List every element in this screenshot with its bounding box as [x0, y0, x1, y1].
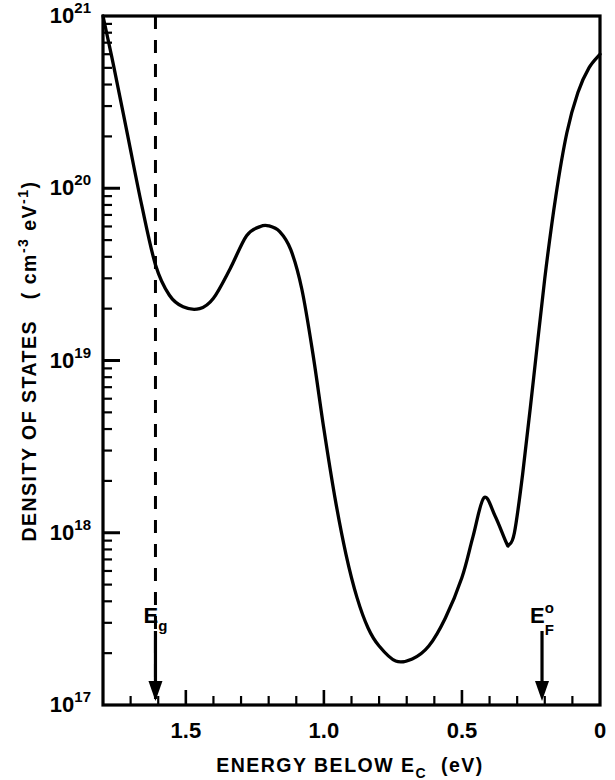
annotation-eg: Eg — [144, 603, 168, 701]
y-axis-title-unit-close: ) — [18, 180, 40, 188]
y-axis-tick-label: 1021 — [50, 0, 91, 28]
axes-rectangle — [103, 16, 600, 705]
annotation-arrow-head-ef0 — [535, 681, 549, 701]
x-axis-tick-label: 1.5 — [171, 718, 202, 743]
axis-annotations: EgEoF — [144, 599, 555, 701]
x-axis-tick-label: 0 — [594, 718, 606, 743]
y-axis-title-main: DENSITY OF STATES — [18, 320, 40, 542]
x-axis-title-subscript: C — [416, 765, 428, 780]
svg-text:1017: 1017 — [50, 688, 91, 717]
y-axis-title-unit-open: ( cm — [18, 253, 40, 299]
svg-text:1021: 1021 — [50, 0, 91, 28]
figure-container: 10211020101910181017 1.51.00.50 EgEoF EN… — [0, 0, 615, 780]
annotation-label-eg: Eg — [144, 603, 168, 634]
y-axis-title-unit-exponent-1: -3 — [15, 238, 31, 253]
density-of-states-chart: 10211020101910181017 1.51.00.50 EgEoF EN… — [0, 0, 615, 780]
plot-frame — [103, 16, 600, 705]
annotation-ef0: EoF — [530, 599, 554, 701]
y-axis-tick-labels: 10211020101910181017 — [50, 0, 91, 717]
x-axis-tick-label: 0.5 — [447, 718, 478, 743]
y-axis-tick-label: 1017 — [50, 688, 91, 717]
x-axis-title-unit: (eV) — [441, 754, 484, 776]
x-axis-title: ENERGY BELOW EC (eV) — [216, 754, 484, 780]
svg-text:1019: 1019 — [50, 344, 91, 373]
y-axis-tick-label: 1019 — [50, 344, 91, 373]
x-axis-major-ticks — [186, 690, 462, 705]
annotation-arrow-head-eg — [148, 681, 162, 701]
y-axis-tick-label: 1020 — [50, 171, 91, 200]
svg-text:1020: 1020 — [50, 171, 91, 200]
y-axis-tick-label: 1018 — [50, 516, 91, 545]
data-curve-density-of-states — [103, 16, 600, 662]
svg-text:1018: 1018 — [50, 516, 91, 545]
y-axis-title-unit-exponent-2: -1 — [15, 188, 31, 203]
x-axis-tick-label: 1.0 — [309, 718, 340, 743]
svg-text:ENERGY BELOW EC (eV): ENERGY BELOW EC (eV) — [216, 754, 484, 780]
y-axis-title-unit-mid: eV — [18, 204, 40, 238]
x-axis-title-main: ENERGY BELOW E — [216, 754, 415, 776]
x-axis-tick-labels: 1.51.00.50 — [171, 718, 607, 743]
svg-text:DENSITY OF STATES ( cm-3 eV-: DENSITY OF STATES ( cm-3 eV-1) — [15, 180, 40, 541]
y-axis-title: DENSITY OF STATES ( cm-3 eV-1) — [15, 180, 40, 541]
